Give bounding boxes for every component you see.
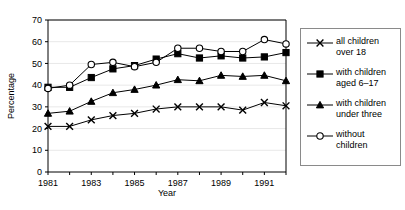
legend-item-2[interactable]: with children under three — [305, 98, 400, 119]
legend-label-0: all children over 18 — [335, 36, 379, 57]
y-tick-label: 30 — [32, 102, 42, 112]
legend-marker-1 — [305, 67, 335, 81]
series-line — [48, 103, 286, 127]
data-series-layer — [44, 36, 289, 129]
legend-item-3[interactable]: without children — [305, 129, 400, 150]
y-tick-label: 0 — [37, 167, 42, 177]
x-tick-label: 1981 — [38, 178, 58, 188]
x-tick-label: 1987 — [168, 178, 188, 188]
series-3 — [45, 36, 289, 91]
y-tick-label: 50 — [32, 59, 42, 69]
legend-marker-2 — [305, 98, 335, 112]
x-axis-title: Year — [158, 188, 176, 198]
x-tick-label: 1985 — [125, 178, 145, 188]
chart-figure: 010203040506070 198119831985198719891991… — [0, 0, 405, 210]
legend-item-1[interactable]: with children aged 6–17 — [305, 67, 400, 88]
x-tick-label: 1983 — [81, 178, 101, 188]
y-tick-label: 10 — [32, 145, 42, 155]
series-0 — [45, 99, 290, 130]
open-circle-marker-icon — [305, 129, 335, 143]
y-tick-label: 60 — [32, 37, 42, 47]
y-tick-label: 70 — [32, 15, 42, 25]
legend-label-2: with children under three — [335, 98, 386, 119]
x-tick-label: 1989 — [211, 178, 231, 188]
x-marker-icon — [305, 36, 335, 50]
y-axis-tick-labels: 010203040506070 — [32, 15, 42, 177]
plot-frame — [48, 20, 286, 172]
chart-gridlines — [48, 20, 286, 150]
x-tick-label: 1991 — [254, 178, 274, 188]
filled-triangle-marker-icon — [305, 98, 335, 112]
legend-marker-3 — [305, 129, 335, 143]
legend-label-3: without children — [335, 129, 368, 150]
x-axis-tick-labels: 198119831985198719891991 — [38, 178, 274, 188]
y-axis-title: Percentage — [6, 73, 16, 119]
chart-legend: all children over 18with children aged 6… — [300, 28, 401, 166]
series-2 — [44, 72, 289, 116]
legend-item-0[interactable]: all children over 18 — [305, 36, 400, 57]
y-tick-label: 40 — [32, 80, 42, 90]
legend-marker-0 — [305, 36, 335, 50]
y-tick-label: 20 — [32, 124, 42, 134]
filled-square-marker-icon — [305, 67, 335, 81]
legend-label-1: with children aged 6–17 — [335, 67, 386, 88]
